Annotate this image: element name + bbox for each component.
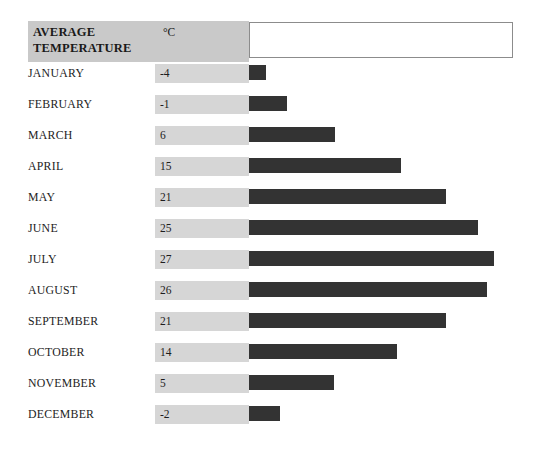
table-row: FEBRUARY-1: [0, 93, 533, 117]
temperature-value: -4: [160, 66, 170, 81]
month-label: JUNE: [28, 221, 58, 236]
value-band: [155, 126, 249, 145]
chart-rows: JANUARY-4FEBRUARY-1MARCH6APRIL15MAY21JUN…: [0, 0, 533, 456]
table-row: AUGUST26: [0, 279, 533, 303]
temperature-bar: [249, 189, 446, 204]
table-row: APRIL15: [0, 155, 533, 179]
month-label: OCTOBER: [28, 345, 85, 360]
month-label: NOVEMBER: [28, 376, 96, 391]
temperature-bar: [249, 375, 334, 390]
temperature-bar: [249, 344, 397, 359]
temperature-bar: [249, 220, 478, 235]
temperature-value: 5: [160, 376, 166, 391]
table-row: DECEMBER-2: [0, 403, 533, 427]
table-row: OCTOBER14: [0, 341, 533, 365]
temperature-value: 6: [160, 128, 166, 143]
temperature-chart-page: AVERAGE TEMPERATURE °C JANUARY-4FEBRUARY…: [0, 0, 533, 456]
temperature-bar: [249, 96, 287, 111]
temperature-value: -1: [160, 97, 170, 112]
month-label: MAY: [28, 190, 55, 205]
temperature-value: 27: [160, 252, 172, 267]
month-label: JULY: [28, 252, 57, 267]
month-label: DECEMBER: [28, 407, 94, 422]
temperature-value: 26: [160, 283, 172, 298]
table-row: MAY21: [0, 186, 533, 210]
temperature-bar: [249, 65, 266, 80]
table-row: JUNE25: [0, 217, 533, 241]
month-label: AUGUST: [28, 283, 77, 298]
temperature-value: -2: [160, 407, 170, 422]
temperature-bar: [249, 251, 494, 266]
month-label: APRIL: [28, 159, 63, 174]
table-row: JULY27: [0, 248, 533, 272]
temperature-bar: [249, 282, 487, 297]
temperature-bar: [249, 313, 446, 328]
temperature-bar: [249, 406, 280, 421]
temperature-value: 25: [160, 221, 172, 236]
temperature-bar: [249, 158, 401, 173]
table-row: NOVEMBER5: [0, 372, 533, 396]
month-label: MARCH: [28, 128, 73, 143]
temperature-value: 14: [160, 345, 172, 360]
month-label: SEPTEMBER: [28, 314, 98, 329]
temperature-value: 15: [160, 159, 172, 174]
month-label: JANUARY: [28, 66, 84, 81]
temperature-value: 21: [160, 314, 172, 329]
month-label: FEBRUARY: [28, 97, 92, 112]
table-row: JANUARY-4: [0, 62, 533, 86]
table-row: SEPTEMBER21: [0, 310, 533, 334]
temperature-bar: [249, 127, 335, 142]
temperature-value: 21: [160, 190, 172, 205]
table-row: MARCH6: [0, 124, 533, 148]
value-band: [155, 374, 249, 393]
